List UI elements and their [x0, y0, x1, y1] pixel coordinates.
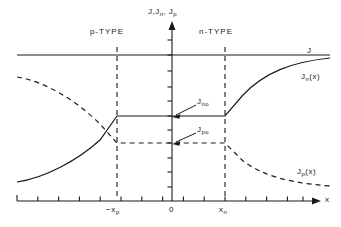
- x-tick-label-minus-xp: −xp: [106, 206, 119, 214]
- y-axis-group: [168, 21, 176, 201]
- jpo-annotation-label: Jpo: [197, 126, 209, 134]
- jpo-leader-arrow: [172, 133, 196, 146]
- electron-current-label-sub: n: [306, 76, 310, 82]
- n-type-region-label: n-TYPE: [199, 28, 233, 36]
- jpo-label-sub: po: [202, 129, 209, 135]
- jpo-label-base: J: [197, 125, 202, 134]
- jno-annotation-label: Jno: [197, 98, 209, 106]
- hole-current-label-suffix: (x): [305, 167, 316, 176]
- jno-label-sub: no: [202, 101, 209, 107]
- jno-leader-arrow: [172, 105, 196, 119]
- x-tick-label-xn: xn: [219, 206, 227, 214]
- electron-current-label-base: J: [301, 72, 306, 81]
- y-axis-label: J,Jn, Jp: [148, 8, 177, 16]
- x-axis-ticks: [17, 195, 303, 201]
- electron-current-label: Jn(x): [301, 73, 320, 81]
- electron-current-curve: [17, 58, 330, 182]
- electron-current-label-suffix: (x): [309, 72, 320, 81]
- x-tick-xn-sub: n: [224, 209, 228, 215]
- hole-current-label-base: J: [297, 167, 302, 176]
- y-axis-label-sub-p: p: [173, 11, 177, 17]
- y-axis-label-part-c: , J: [163, 7, 173, 16]
- plot-canvas: [0, 0, 341, 227]
- y-axis-ticks: [168, 40, 173, 187]
- total-current-label: J: [307, 47, 312, 55]
- hole-current-label-sub: p: [302, 171, 306, 177]
- x-axis-group: [17, 195, 321, 205]
- hole-current-label: Jp(x): [297, 168, 316, 176]
- y-axis-label-sub-n: n: [160, 11, 164, 17]
- p-type-region-label: p-TYPE: [90, 28, 124, 36]
- hole-current-curve: [17, 77, 330, 186]
- x-tick-xn-base: x: [219, 205, 224, 214]
- pn-junction-current-diagram: J,Jn, Jp p-TYPE n-TYPE J Jn(x) Jp(x) Jno…: [0, 0, 341, 227]
- x-axis-label: x: [325, 196, 330, 204]
- x-tick-minus-xp-sub: p: [116, 209, 120, 215]
- x-tick-label-origin: 0: [169, 206, 174, 214]
- x-tick-minus-xp-base: −x: [106, 205, 116, 214]
- x-axis-arrowhead: [312, 198, 321, 205]
- jno-label-base: J: [197, 97, 202, 106]
- y-axis-arrowhead: [169, 21, 176, 30]
